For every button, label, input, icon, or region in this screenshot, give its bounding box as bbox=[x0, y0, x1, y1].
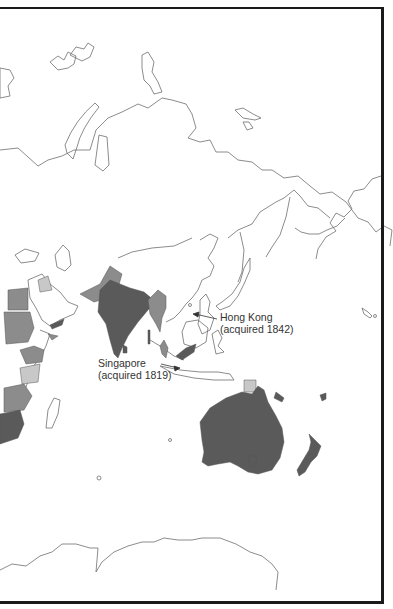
hong-kong-acquired: (acquired 1842) bbox=[220, 323, 294, 335]
hong-kong-label: Hong Kong (acquired 1842) bbox=[220, 311, 294, 335]
singapore-name: Singapore bbox=[98, 357, 172, 369]
hong-kong-name: Hong Kong bbox=[220, 311, 294, 323]
map-frame bbox=[0, 7, 384, 604]
singapore-label: Singapore (acquired 1819) bbox=[98, 357, 172, 381]
singapore-acquired: (acquired 1819) bbox=[98, 369, 172, 381]
